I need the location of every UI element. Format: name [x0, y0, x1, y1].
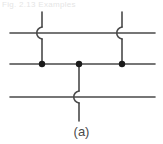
node-centre — [76, 61, 82, 67]
node-left — [39, 61, 45, 67]
figure-container: Fig. 2.13 Examples (a) — [0, 0, 163, 144]
schematic-drawing — [0, 0, 163, 144]
figure-sublabel: (a) — [0, 124, 163, 140]
horizontal-bus-lines — [10, 33, 155, 97]
node-right — [119, 61, 125, 67]
